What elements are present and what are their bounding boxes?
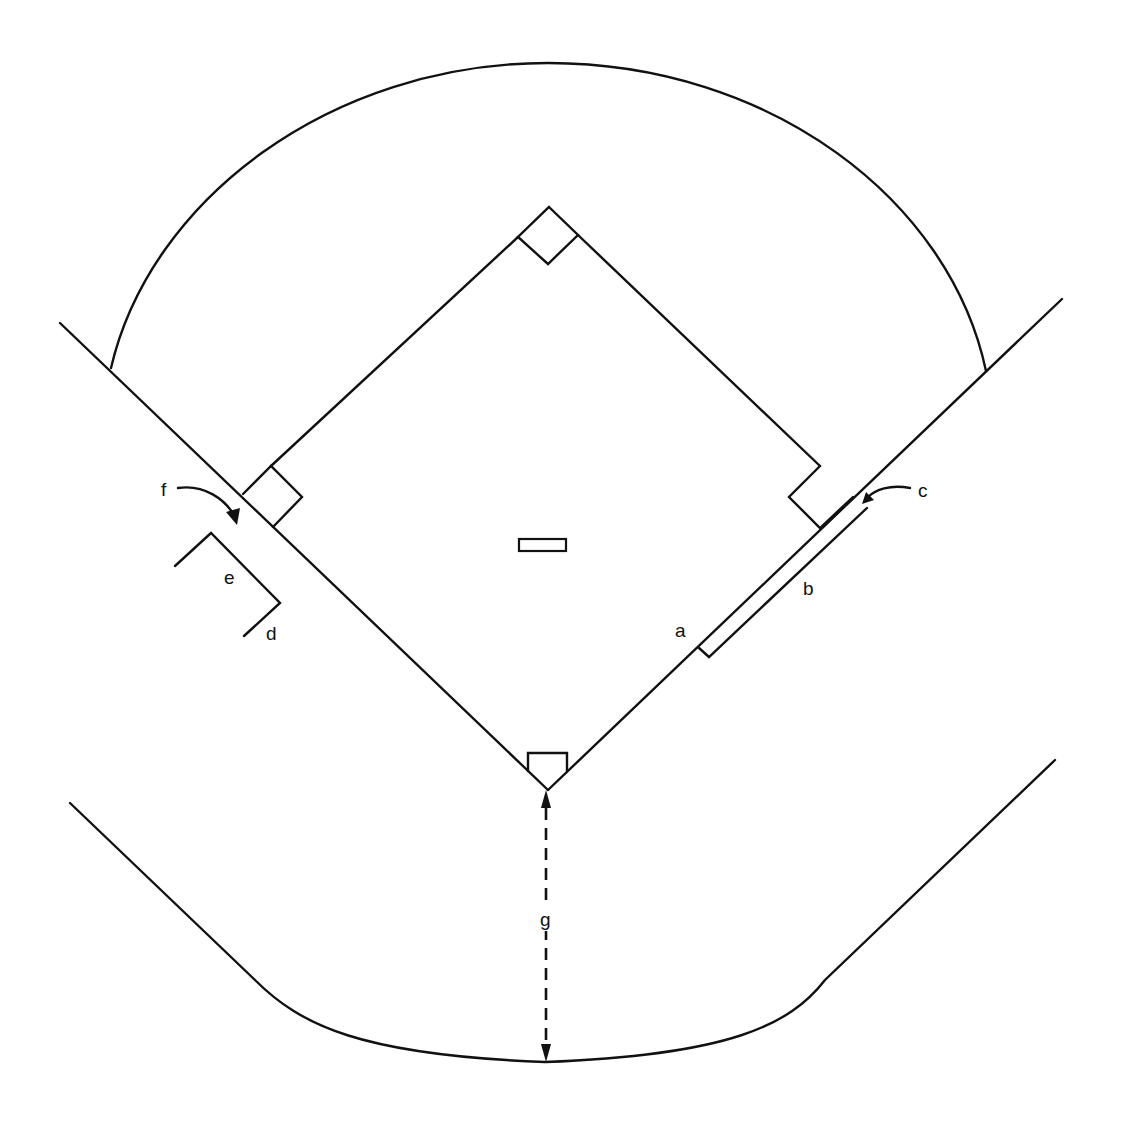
first-base bbox=[789, 466, 853, 528]
label-f: f bbox=[161, 479, 167, 500]
arrowhead-f bbox=[226, 508, 240, 525]
label-a: a bbox=[675, 620, 686, 641]
outfield-arc bbox=[111, 63, 986, 371]
label-c: c bbox=[918, 480, 928, 501]
third-to-second-baseline bbox=[271, 237, 518, 466]
third-base bbox=[243, 466, 302, 527]
second-to-first-baseline bbox=[578, 235, 820, 466]
arrowhead-g-bottom bbox=[541, 1044, 551, 1062]
running-lane bbox=[699, 508, 867, 657]
arrow-c bbox=[868, 487, 910, 497]
second-base bbox=[518, 207, 578, 264]
label-g: g bbox=[540, 909, 551, 930]
home-plate bbox=[528, 753, 567, 771]
label-e: e bbox=[224, 567, 235, 588]
left-foul-line bbox=[60, 323, 548, 790]
label-b: b bbox=[803, 578, 814, 599]
baseball-field-diagram: a b c d e f g bbox=[0, 0, 1125, 1129]
pitchers-rubber bbox=[519, 539, 566, 551]
arrow-f bbox=[178, 487, 234, 515]
right-foul-line bbox=[548, 299, 1062, 790]
arrowhead-g-top bbox=[541, 790, 551, 808]
backstop bbox=[70, 760, 1055, 1062]
label-d: d bbox=[266, 623, 277, 644]
